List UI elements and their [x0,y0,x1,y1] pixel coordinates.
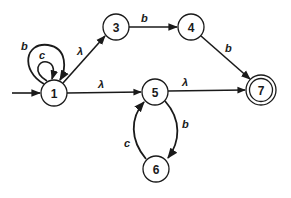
transition-1-1-c [38,62,54,81]
state-1: 1 [41,80,67,106]
transition-1-5 [67,92,141,93]
edge-label-5-7: λ [181,76,188,88]
state-6: 6 [143,156,169,182]
state-label-1: 1 [51,87,58,101]
edge-label-1-5: λ [97,78,104,90]
state-5: 5 [142,79,168,105]
transition-1-3 [63,36,105,83]
state-7-accepting: 7 [246,75,276,105]
edge-label-6-5: c [124,137,130,149]
state-label-5: 5 [152,86,159,100]
state-4: 4 [178,14,204,40]
edge-label-1-1-b: b [21,40,28,52]
edge-label-5-6: b [182,118,189,130]
state-label-6: 6 [153,163,160,177]
state-3: 3 [103,14,129,40]
transition-5-6 [165,101,177,158]
transition-5-7 [168,90,245,91]
state-label-4: 4 [188,21,195,35]
transition-1-1-b [28,45,64,84]
edge-label-1-3: λ [76,45,83,57]
edge-label-3-4: b [141,12,148,24]
state-label-3: 3 [113,21,120,35]
automaton-diagram: b c λ b b λ λ b c 1 3 4 5 6 7 [0,0,291,198]
edge-label-4-7: b [225,42,232,54]
edge-label-1-1-c: c [39,49,45,61]
state-label-7: 7 [258,84,265,98]
transition-6-5 [134,102,146,159]
